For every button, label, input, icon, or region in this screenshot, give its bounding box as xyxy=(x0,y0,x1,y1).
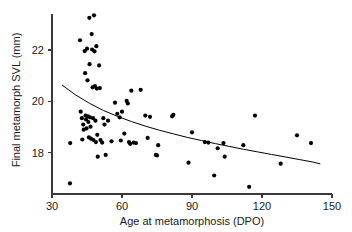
data-point xyxy=(86,120,90,124)
x-tick-label: 150 xyxy=(323,200,341,212)
data-point xyxy=(113,101,117,105)
data-point xyxy=(279,162,283,166)
y-axis-ticks: 182022 xyxy=(32,44,52,159)
data-point xyxy=(87,62,91,66)
data-point xyxy=(92,13,96,17)
data-point xyxy=(148,115,152,119)
data-point xyxy=(93,119,97,123)
data-point xyxy=(102,122,106,126)
data-point xyxy=(100,140,104,144)
data-point xyxy=(104,153,108,157)
axes-group xyxy=(52,14,332,194)
data-point xyxy=(186,161,190,165)
data-point xyxy=(78,38,82,42)
data-point xyxy=(92,49,96,53)
data-point xyxy=(134,141,138,145)
data-point xyxy=(216,146,220,150)
data-point xyxy=(80,137,84,141)
data-point xyxy=(143,113,147,117)
regression-curve xyxy=(62,85,320,164)
data-point xyxy=(241,143,245,147)
y-tick-label: 20 xyxy=(32,95,44,107)
data-point xyxy=(119,138,123,142)
data-point xyxy=(87,16,91,20)
data-point xyxy=(122,131,126,135)
x-axis-title: Age at metamorphosis (DPO) xyxy=(120,215,264,227)
data-point xyxy=(98,86,102,90)
data-point xyxy=(120,110,124,114)
x-tick-label: 30 xyxy=(46,200,58,212)
data-point xyxy=(146,136,150,140)
chart-canvas: 182022 306090120150 Age at metamorphosis… xyxy=(0,0,352,232)
data-point xyxy=(129,89,133,93)
data-point xyxy=(85,78,89,82)
data-point xyxy=(88,125,92,129)
data-point xyxy=(309,141,313,145)
data-point xyxy=(295,133,299,137)
data-point xyxy=(190,130,194,134)
scatter-plot-figure: 182022 306090120150 Age at metamorphosis… xyxy=(0,0,352,232)
x-tick-label: 60 xyxy=(116,200,128,212)
data-point xyxy=(171,113,175,117)
data-point xyxy=(223,155,227,159)
y-tick-label: 18 xyxy=(32,147,44,159)
data-point xyxy=(97,63,101,67)
data-point xyxy=(68,181,72,185)
data-point xyxy=(101,116,105,120)
data-point xyxy=(109,139,113,143)
data-point xyxy=(106,119,110,123)
data-point xyxy=(85,47,89,51)
data-point xyxy=(96,155,100,159)
data-point xyxy=(126,101,130,105)
y-tick-label: 22 xyxy=(32,44,44,56)
data-point xyxy=(94,44,98,48)
data-point xyxy=(155,153,159,157)
x-tick-label: 90 xyxy=(186,200,198,212)
data-point xyxy=(81,122,85,126)
data-point xyxy=(139,88,143,92)
y-axis-title: Final metamorph SVL (mm) xyxy=(10,33,22,168)
data-point xyxy=(212,173,216,177)
data-point xyxy=(68,141,72,145)
x-axis-ticks: 306090120150 xyxy=(46,194,341,212)
data-point xyxy=(247,185,251,189)
data-point xyxy=(253,113,257,117)
data-point xyxy=(84,126,88,130)
data-point xyxy=(156,143,160,147)
data-points-group xyxy=(68,13,313,189)
data-point xyxy=(94,140,98,144)
data-point xyxy=(83,71,87,75)
x-tick-label: 120 xyxy=(253,200,271,212)
data-point xyxy=(79,110,83,114)
data-point xyxy=(80,116,84,120)
data-point xyxy=(90,32,94,36)
data-point xyxy=(95,133,99,137)
